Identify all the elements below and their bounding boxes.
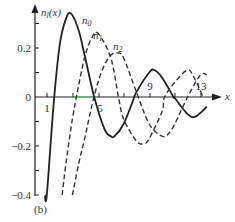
y-axis-label: nl(x) xyxy=(41,6,61,20)
y-tick-label-neg0.2: −0.2 xyxy=(11,140,31,152)
x-tick-label-1: 1 xyxy=(44,102,50,114)
y-tick-label-0.2: 0.2 xyxy=(17,42,31,54)
spherical-neumann-chart: 0.2 0 −0.2 −0.4 1 5 9 13 nl(x) x n0 n1 n… xyxy=(0,0,235,222)
series-label-n2: n2 xyxy=(113,40,123,54)
y-axis-arrow-icon xyxy=(32,4,39,13)
x-tick-label-13: 13 xyxy=(196,80,208,92)
series-n2-line xyxy=(72,53,206,195)
x-tick-label-9: 9 xyxy=(147,80,153,92)
panel-label: (b) xyxy=(34,203,47,216)
y-tick-label-0: 0 xyxy=(26,91,32,103)
y-tick-label-neg0.4: −0.4 xyxy=(11,189,31,201)
x-axis-label: x xyxy=(224,90,230,102)
series-n1-line xyxy=(62,32,203,195)
series-label-n1: n1 xyxy=(93,29,103,43)
series-label-n0: n0 xyxy=(82,14,92,28)
x-axis-arrow-icon xyxy=(212,94,222,101)
